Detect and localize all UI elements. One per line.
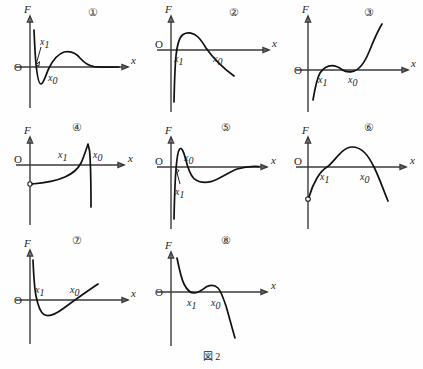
panel-2-x0-label: x0 [212,53,222,67]
panel-6-x0-label: x0 [359,171,369,185]
panel-1-x0-label: x0 [47,72,57,86]
panel-6-origin-label: O [294,155,302,167]
panel-4-x1-label: x1 [57,149,67,163]
panel-1-axes [16,16,128,108]
panel-7-number: ⑦ [72,234,82,247]
panel-1: ① F x O x1 x0 [0,4,141,117]
panel-6-x-label: x [409,154,415,166]
panel-2-curve [174,33,234,102]
panel-2-f-label: F [164,4,172,15]
panel-5: ⑤ F x O x0 x1 [141,121,282,234]
panel-8-x1-label: x1 [186,297,196,311]
panel-7-graph: F x O x1 x0 [0,234,141,354]
panel-4-axes [16,137,124,225]
panel-1-graph: F x O x1 x0 [0,4,141,117]
panel-8: ⑧ F x O x1 x0 [141,234,282,347]
panel-8-x0-label: x0 [210,297,220,311]
panel-5-x1-label: x1 [174,186,184,200]
panel-2-number: ② [229,6,239,19]
panel-5-number: ⑤ [221,121,231,134]
panel-3-curve [313,24,382,100]
panel-6-number: ⑥ [364,121,374,134]
panel-1-number: ① [88,6,98,19]
panel-7-origin-label: O [14,294,22,306]
figure-container: ① F x O x1 x0 ② [0,0,423,369]
panel-3-x1-label: x1 [317,74,327,88]
panel-5-f-label: F [164,124,172,136]
panel-8-curve [177,258,235,338]
panel-3-graph: F x O x1 x0 [282,4,423,117]
panel-2-graph: F x O x1 x0 [141,4,282,117]
panel-8-number: ⑧ [221,234,231,247]
panel-2: ② F x O x1 x0 [141,4,282,117]
panel-4-number: ④ [72,121,82,134]
panel-5-x0-label: x0 [183,152,193,166]
panel-4-origin-label: O [14,153,22,165]
panel-3-f-label: F [301,4,309,15]
panel-6-x1-label: x1 [319,171,329,185]
panel-3-origin-label: O [294,64,302,76]
panel-5-graph: F x O x0 x1 [141,121,282,234]
panel-2-x-label: x [271,37,277,49]
panel-1-x-label: x [130,54,136,66]
panel-4-x-label: x [127,152,133,164]
panel-7-x-label: x [130,287,136,299]
panel-4-f-label: F [23,124,31,136]
panel-2-origin-label: O [155,38,163,50]
panel-1-origin-label: O [14,61,22,73]
panel-6: ⑥ F x O x1 x0 [282,121,423,234]
panel-1-f-label: F [23,4,31,15]
panel-6-graph: F x O x1 x0 [282,121,423,234]
panel-8-f-label: F [164,239,172,251]
panel-7-x0-label: x0 [69,284,79,298]
panel-5-x-label: x [270,154,276,166]
panel-8-x-label: x [270,279,276,291]
panel-7-f-label: F [23,237,31,249]
panel-4-graph: F x O x1 x0 [0,121,141,234]
panel-6-axes [296,137,406,229]
figure-caption: 図 2 [0,348,423,363]
panel-7: ⑦ F x O x1 x0 [0,234,141,347]
panel-8-origin-label: O [155,286,163,298]
panel-5-origin-label: O [155,155,163,167]
panel-8-graph: F x O x1 x0 [141,234,282,354]
panel-4: ④ F x O x1 x0 [0,121,141,234]
panel-3: ③ F x O x1 x0 [282,4,423,117]
panel-3-number: ③ [364,6,374,19]
panel-6-f-label: F [301,124,309,136]
panel-3-x-label: x [410,57,416,69]
panel-4-x0-label: x0 [92,149,102,163]
panel-3-x0-label: x0 [347,74,357,88]
